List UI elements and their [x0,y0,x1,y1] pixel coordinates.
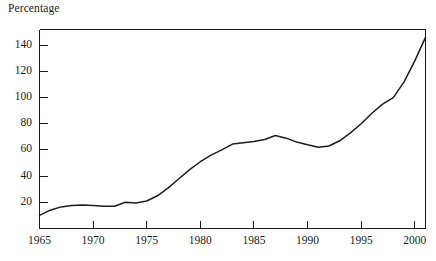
frame-border [40,30,426,229]
x-tick-label: 1990 [285,234,331,246]
y-axis-ticks [40,45,48,202]
x-tick-label: 1980 [177,234,223,246]
y-tick-label: 140 [4,38,32,50]
data-line-percentage [40,37,426,215]
x-tick-label: 1985 [231,234,277,246]
x-tick-label: 2000 [392,234,436,246]
y-tick-label: 60 [4,142,32,154]
data-series-group [40,37,426,215]
y-tick-label: 20 [4,195,32,207]
x-tick-label: 1965 [17,234,63,246]
y-tick-label: 80 [4,116,32,128]
x-tick-label: 1975 [124,234,170,246]
line-chart: Percentage 20406080100120140 19651970197… [0,0,436,261]
x-axis-ticks [40,221,415,229]
plot-frame [40,30,426,229]
y-tick-label: 100 [4,90,32,102]
y-tick-label: 40 [4,169,32,181]
y-tick-label: 120 [4,64,32,76]
plot-canvas [0,0,436,261]
x-tick-label: 1970 [70,234,116,246]
x-tick-label: 1995 [338,234,384,246]
